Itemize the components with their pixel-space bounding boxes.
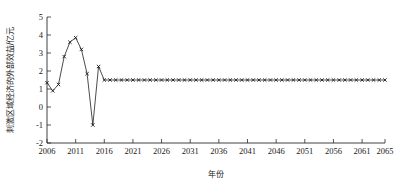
y-tick-label: 0 [39,102,43,112]
y-tick-label: 1 [39,84,43,94]
x-tick-label: 2061 [354,146,371,156]
x-tick-label: 2006 [39,146,56,156]
x-tick-label: 2056 [325,146,342,156]
data-point-marker [51,89,54,92]
x-tick-label: 2021 [124,146,141,156]
x-axis-title: 年份 [208,169,224,179]
data-point-marker [68,41,71,44]
chart-container: -2-1012345 20062011201620212026203120362… [0,0,404,184]
x-tick-label: 2046 [268,146,285,156]
x-tick-label: 2011 [67,146,84,156]
y-tick-label: 5 [39,12,43,22]
y-tick-label: 2 [39,66,43,76]
x-tick-label: 2065 [377,146,394,156]
x-tick-label: 2016 [96,146,113,156]
x-tick-label: 2026 [153,146,170,156]
y-axis-title: 刺激区域经济的外部效益/亿元 [5,27,15,134]
y-tick-label: -1 [36,120,43,130]
y-tick-label: 4 [39,30,44,40]
x-tick-label: 2051 [296,146,313,156]
x-tick-label: 2041 [239,146,256,156]
series-markers [45,36,386,127]
x-tick-label: 2036 [210,146,227,156]
data-point-marker [74,36,77,39]
x-axis-tick-group: 2006201120162021202620312036204120462051… [39,139,394,156]
x-tick-label: 2031 [182,146,199,156]
y-tick-label: 3 [39,48,43,58]
line-chart: -2-1012345 20062011201620212026203120362… [0,0,404,184]
y-axis-tick-group: -2-1012345 [36,12,51,148]
